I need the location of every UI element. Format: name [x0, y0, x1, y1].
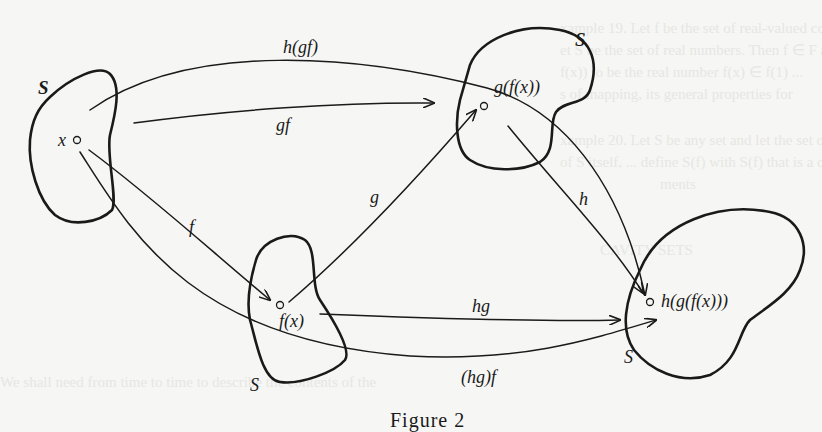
set-label-fx: S: [250, 376, 259, 394]
point-x: [74, 137, 81, 144]
arrow-label-g: g: [370, 188, 379, 206]
set-fx-blob: [248, 236, 346, 382]
point-gfx: [481, 103, 488, 110]
set-label-domain: S: [38, 78, 49, 97]
figure-caption: Figure 2: [390, 409, 465, 432]
arrow-f: [89, 150, 270, 300]
point-fx: [277, 302, 284, 309]
point-label-fx: f(x): [279, 312, 304, 330]
arrow-hg-f: [80, 152, 656, 357]
set-label-gfx: S: [575, 30, 586, 49]
arrow-label-hg-f: (hg)f: [461, 368, 496, 386]
arrow-hg: [320, 314, 620, 321]
arrow-label-gf: gf: [276, 116, 290, 134]
point-label-hgfx: h(g(f(x))): [661, 292, 728, 310]
point-hgfx: [647, 299, 654, 306]
arrow-label-hg: hg: [472, 297, 490, 315]
arrow-g: [289, 110, 476, 302]
arrow-h: [508, 126, 643, 293]
arrow-label-h: h: [579, 190, 588, 208]
arrow-label-h-gf: h(gf): [283, 38, 318, 56]
point-label-x: x: [58, 131, 66, 149]
set-label-hgfx: S: [624, 348, 633, 366]
arrow-label-f: f: [189, 218, 194, 236]
point-label-gfx: g(f(x)): [494, 78, 540, 96]
arrow-h-gf: [90, 60, 645, 295]
